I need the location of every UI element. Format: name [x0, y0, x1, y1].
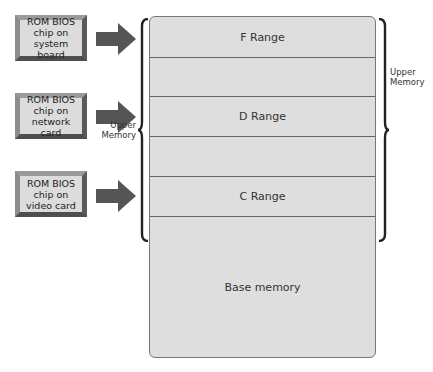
chip-label: ROM BIOS chip on network card — [20, 98, 82, 134]
chip-label-line: chip on — [20, 27, 82, 38]
rom-bios-chip-system-board: ROM BIOS chip on system board — [15, 15, 87, 61]
brace-label-line: Upper — [100, 120, 136, 130]
memory-row-d-range: D Range — [150, 97, 375, 137]
arrow-right-icon — [96, 180, 138, 212]
chip-label-line: network card — [20, 116, 82, 138]
chip-label: ROM BIOS chip on video card — [20, 176, 82, 212]
brace-label-line: Memory — [100, 130, 136, 140]
brace-label-line: Memory — [390, 77, 425, 87]
memory-row-base-memory: Base memory — [150, 217, 375, 357]
memory-row-c-range: C Range — [150, 177, 375, 217]
row-label: Base memory — [224, 281, 300, 294]
arrow-right-icon — [96, 23, 138, 55]
chip-label-line: ROM BIOS — [20, 16, 82, 27]
chip-label: ROM BIOS chip on system board — [20, 20, 82, 56]
chip-label-line: ROM BIOS — [26, 178, 76, 189]
row-label: D Range — [239, 110, 286, 123]
right-brace-icon — [377, 18, 389, 242]
rom-bios-chip-network-card: ROM BIOS chip on network card — [15, 93, 87, 139]
chip-label-line: chip on — [20, 105, 82, 116]
chip-label-line: ROM BIOS — [20, 94, 82, 105]
chip-label-line: system board — [20, 38, 82, 60]
row-label: C Range — [239, 190, 285, 203]
chip-label-line: video card — [26, 200, 76, 211]
left-upper-memory-label: Upper Memory — [100, 120, 136, 140]
memory-map: F Range D Range C Range Base memory — [149, 16, 376, 358]
rom-bios-chip-video-card: ROM BIOS chip on video card — [15, 171, 87, 217]
chip-label-line: chip on — [26, 189, 76, 200]
memory-row-blank — [150, 137, 375, 177]
right-upper-memory-label: Upper Memory — [390, 67, 425, 87]
memory-row-f-range: F Range — [150, 17, 375, 58]
brace-label-line: Upper — [390, 67, 425, 77]
row-label: F Range — [240, 31, 285, 44]
memory-row-blank — [150, 58, 375, 97]
